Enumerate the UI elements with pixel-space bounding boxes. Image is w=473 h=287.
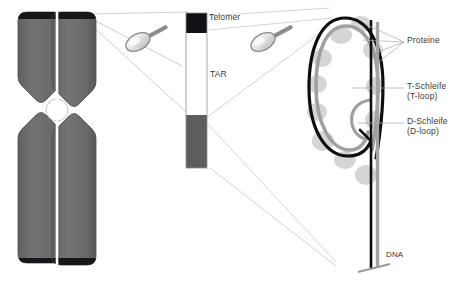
- proteine-leaders: [362, 24, 404, 64]
- label-tar: TAR: [210, 70, 227, 80]
- label-dna: DNA: [386, 250, 403, 260]
- label-d-loop: (D-loop): [407, 127, 439, 137]
- label-leaders-layer: [0, 0, 473, 287]
- label-t-loop: (T-loop): [407, 92, 438, 102]
- diagram-canvas: Telomer TAR Proteine T-Schleife (T-loop)…: [0, 0, 473, 287]
- label-proteine: Proteine: [407, 36, 440, 46]
- label-telomer: Telomer: [209, 13, 240, 23]
